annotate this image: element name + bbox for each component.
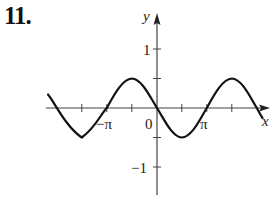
x-tick-label-neg-pi: −π xyxy=(96,116,112,132)
x-tick-label-zero: 0 xyxy=(145,116,153,132)
y-tick-label-1: 1 xyxy=(143,42,151,58)
x-tick-label-pi: π xyxy=(200,116,208,132)
y-tick-label-neg1: −1 xyxy=(131,160,147,176)
graph: y x 1 −1 −π 0 π xyxy=(0,0,273,200)
y-axis-label: y xyxy=(141,8,150,24)
x-axis-label: x xyxy=(261,113,269,129)
